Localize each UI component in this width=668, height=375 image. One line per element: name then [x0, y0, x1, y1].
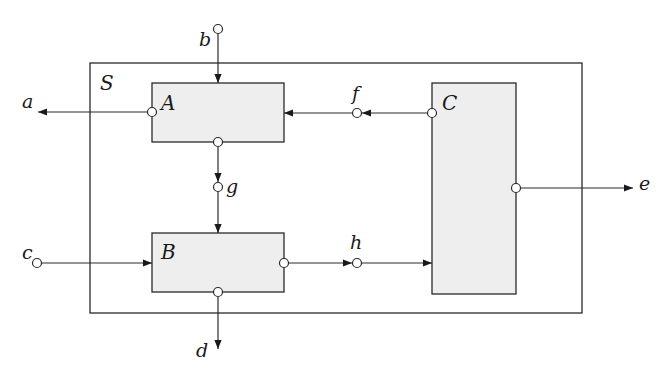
port-h-circle [353, 259, 362, 268]
signal-c-label: c [22, 241, 33, 263]
block-a-label: A [159, 91, 175, 115]
port-b-right-circle [280, 259, 289, 268]
block-c: C [432, 83, 516, 294]
block-diagram: S A B C a b g f [0, 0, 668, 375]
block-c-label: C [442, 91, 457, 115]
port-b-bottom-circle [214, 288, 223, 297]
port-c-left-circle [428, 109, 437, 118]
signal-d-label: d [196, 339, 208, 361]
port-a-bottom-circle [214, 138, 223, 147]
system-label: S [100, 71, 114, 95]
port-g-circle [214, 183, 223, 192]
port-b-circle [214, 25, 223, 34]
signal-g-label: g [226, 175, 238, 197]
signal-a-label: a [22, 90, 33, 112]
block-a: A [152, 83, 284, 142]
signal-h-label: h [350, 231, 362, 253]
block-b-label: B [160, 240, 176, 264]
port-f-circle [353, 109, 362, 118]
signal-b-label: b [199, 28, 211, 50]
port-a-circle [148, 108, 157, 117]
block-b: B [152, 233, 284, 292]
port-c-right-circle [512, 184, 521, 193]
port-c-circle [33, 259, 42, 268]
signal-e-label: e [639, 172, 650, 194]
